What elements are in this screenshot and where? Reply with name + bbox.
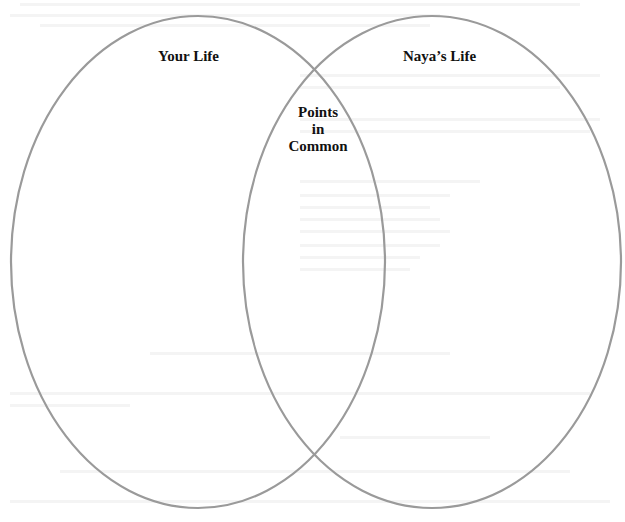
label-common-line-3: Common: [282, 138, 354, 155]
bleed-through-line: [10, 14, 440, 17]
bleed-through-line: [20, 3, 580, 6]
bleed-through-line: [300, 268, 410, 271]
bleed-through-line: [40, 24, 430, 27]
bleed-through-line: [10, 404, 130, 407]
label-common-line-2: in: [282, 121, 354, 138]
label-your-life: Your Life: [158, 48, 219, 65]
bleed-through-line: [10, 500, 610, 503]
bleed-through-text: [10, 3, 610, 503]
circle-nayas-life: [243, 16, 621, 508]
bleed-through-line: [10, 392, 590, 395]
bleed-through-line: [60, 470, 570, 473]
bleed-through-line: [300, 256, 420, 259]
bleed-through-line: [300, 230, 450, 233]
bleed-through-line: [300, 218, 440, 221]
bleed-through-line: [150, 352, 450, 355]
venn-svg: [0, 0, 625, 522]
bleed-through-line: [300, 180, 480, 183]
label-common-line-1: Points: [282, 104, 354, 121]
bleed-through-line: [300, 194, 450, 197]
label-points-in-common: Points in Common: [282, 104, 354, 155]
bleed-through-line: [300, 86, 560, 89]
bleed-through-line: [300, 206, 430, 209]
bleed-through-line: [340, 436, 490, 439]
circle-your-life: [11, 16, 385, 508]
label-nayas-life: Naya’s Life: [403, 48, 476, 65]
bleed-through-line: [300, 244, 440, 247]
